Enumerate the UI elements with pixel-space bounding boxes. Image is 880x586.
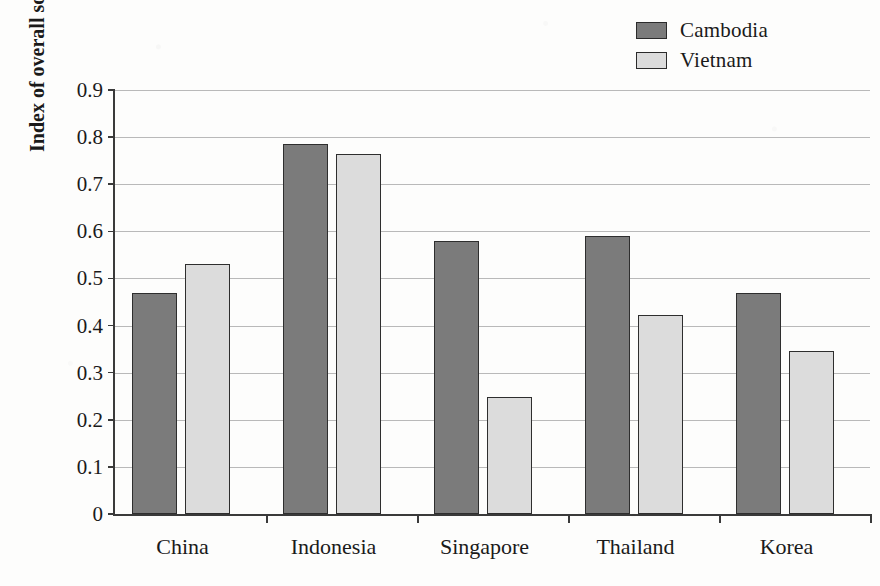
- bar-cambodia-thailand: [585, 236, 630, 514]
- x-axis-tick-mark: [719, 514, 721, 523]
- gridline: [115, 90, 870, 91]
- gridline: [115, 184, 870, 185]
- y-axis-tick-mark: [108, 136, 115, 138]
- bar-vietnam-china: [185, 264, 230, 514]
- bar-cambodia-korea: [736, 293, 781, 514]
- bar-vietnam-korea: [789, 351, 834, 514]
- x-axis-label-indonesia: Indonesia: [291, 534, 377, 560]
- y-axis-tick-label: 0: [93, 502, 104, 527]
- y-axis-tick-label: 0.7: [77, 172, 103, 197]
- y-axis-tick-mark: [108, 231, 115, 233]
- legend-item-vietnam: Vietnam: [636, 50, 768, 71]
- bar-cambodia-singapore: [434, 241, 479, 514]
- x-axis-tick-mark: [417, 514, 419, 523]
- bar-vietnam-singapore: [487, 397, 532, 514]
- x-axis-label-china: China: [156, 534, 209, 560]
- x-axis-tick-mark: [568, 514, 570, 523]
- y-axis-tick-label: 0.1: [77, 454, 103, 479]
- bar-vietnam-thailand: [638, 315, 683, 514]
- y-axis-tick-mark: [108, 183, 115, 185]
- y-axis-title-container: Index of overall source taxing rights: [8, 90, 38, 514]
- x-axis-tick-mark: [266, 514, 268, 523]
- x-axis-tick-mark: [870, 514, 872, 523]
- legend-swatch-vietnam: [636, 52, 667, 69]
- x-axis-label-singapore: Singapore: [440, 534, 529, 560]
- legend-label-vietnam: Vietnam: [680, 50, 752, 71]
- y-axis-tick-mark: [108, 278, 115, 280]
- plot-area: 00.10.20.30.40.50.60.70.80.9ChinaIndones…: [113, 90, 870, 516]
- gridline: [115, 231, 870, 232]
- y-axis-tick-label: 0.8: [77, 125, 103, 150]
- y-axis-tick-mark: [108, 89, 115, 91]
- bar-cambodia-china: [132, 293, 177, 514]
- y-axis-tick-mark: [108, 372, 115, 374]
- y-axis-tick-label: 0.3: [77, 360, 103, 385]
- y-axis-tick-label: 0.4: [77, 313, 103, 338]
- legend-label-cambodia: Cambodia: [680, 20, 768, 41]
- chart-legend: Cambodia Vietnam: [636, 20, 768, 71]
- y-axis-tick-mark: [108, 325, 115, 327]
- y-axis-tick-label: 0.5: [77, 266, 103, 291]
- bar-vietnam-indonesia: [336, 154, 381, 514]
- grouped-bar-chart: Cambodia Vietnam Index of overall source…: [0, 0, 880, 586]
- y-axis-tick-label: 0.9: [77, 78, 103, 103]
- x-axis-label-korea: Korea: [760, 534, 814, 560]
- legend-item-cambodia: Cambodia: [636, 20, 768, 41]
- bar-cambodia-indonesia: [283, 144, 328, 514]
- gridline: [115, 137, 870, 138]
- x-axis-label-thailand: Thailand: [596, 534, 674, 560]
- y-axis-tick-mark: [108, 513, 115, 515]
- y-axis-tick-label: 0.2: [77, 407, 103, 432]
- y-axis-tick-label: 0.6: [77, 219, 103, 244]
- y-axis-tick-mark: [108, 419, 115, 421]
- y-axis-tick-mark: [108, 466, 115, 468]
- y-axis-title: Index of overall source taxing rights: [22, 0, 52, 210]
- legend-swatch-cambodia: [636, 22, 667, 39]
